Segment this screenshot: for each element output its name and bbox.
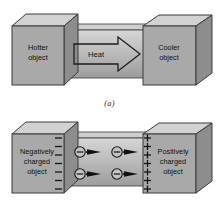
negatively-charged-label-line1: Negatively xyxy=(20,147,54,156)
hotter-object-label-line2: object xyxy=(28,53,47,62)
panel-a-drawing: Hotter object Cooler object Heat xyxy=(0,0,219,100)
physics-figure: Hotter object Cooler object Heat (a) xyxy=(0,0,219,219)
caption-a: (a) xyxy=(0,98,219,108)
panel-a-heat-flow: Hotter object Cooler object Heat (a) xyxy=(0,0,219,110)
panel-b-drawing: Negatively charged object Positively cha… xyxy=(0,108,219,208)
hotter-object-label-line1: Hotter xyxy=(28,43,48,52)
positively-charged-label-line2: charged xyxy=(160,157,186,166)
negatively-charged-label-line2: charged xyxy=(24,157,50,166)
positively-charged-label-line1: Positively xyxy=(158,147,189,156)
heat-arrow-label: Heat xyxy=(88,50,105,59)
positively-charged-label-line3: object xyxy=(163,167,182,176)
cooler-object-label-line2: object xyxy=(159,53,178,62)
cooler-object-label-line1: Cooler xyxy=(158,43,180,52)
panel-b-charge-flow: Negatively charged object Positively cha… xyxy=(0,108,219,219)
negatively-charged-label-line3: object xyxy=(27,167,46,176)
